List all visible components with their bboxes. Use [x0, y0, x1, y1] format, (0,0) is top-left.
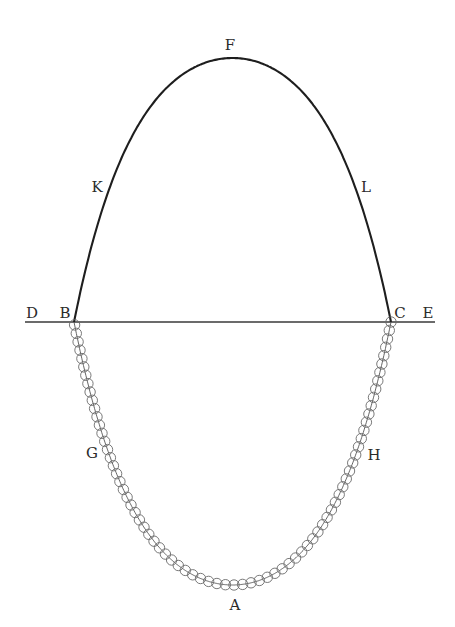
label-G: G — [86, 446, 98, 461]
label-E: E — [423, 306, 434, 321]
label-L: L — [361, 180, 371, 195]
inverted-catenary-arch-BFC — [74, 58, 391, 322]
chain-beads — [69, 317, 396, 590]
label-B: B — [59, 306, 70, 321]
label-A: A — [230, 598, 241, 613]
label-F: F — [225, 38, 235, 53]
label-D: D — [26, 306, 38, 321]
label-K: K — [91, 180, 102, 195]
hanging-chain-line-BAC — [74, 322, 391, 585]
label-C: C — [394, 306, 405, 321]
label-H: H — [367, 448, 380, 463]
